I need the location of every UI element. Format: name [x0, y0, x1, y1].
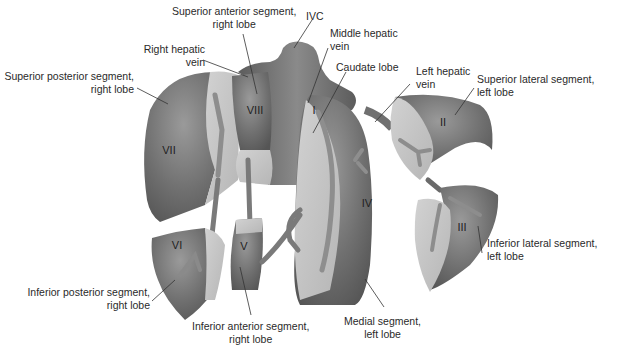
label-middle-hepatic-vein: Middle hepatic vein [330, 27, 398, 52]
label-inferior-posterior-segment: Inferior posterior segment, right lobe [10, 286, 150, 311]
label-ivc: IVC [306, 10, 324, 23]
label-superior-posterior-segment: Superior posterior segment, right lobe [2, 70, 134, 95]
numeral-v: V [240, 240, 248, 252]
segment-ii-shape [391, 95, 493, 190]
segment-vi-shape [152, 228, 225, 320]
label-superior-anterior-segment: Superior anterior segment, right lobe [172, 5, 296, 30]
label-left-hepatic-vein: Left hepatic vein [416, 65, 470, 90]
label-inferior-lateral-segment: Inferior lateral segment, left lobe [487, 237, 597, 262]
label-superior-lateral-segment: Superior lateral segment, left lobe [477, 73, 594, 98]
label-caudate-lobe: Caudate lobe [336, 61, 398, 74]
segment-iii-shape [415, 185, 498, 292]
segment-iv-shape [289, 95, 372, 305]
numeral-vi: VI [172, 239, 182, 251]
numeral-iii: III [457, 221, 466, 233]
numeral-i: I [312, 104, 315, 116]
label-right-hepatic-vein: Right hepatic vein [120, 43, 205, 68]
left-hepatic-vein-shape [365, 110, 392, 128]
segment-vii-shape [144, 72, 240, 223]
label-inferior-anterior-segment: Inferior anterior segment, right lobe [192, 320, 309, 345]
numeral-ii: II [440, 116, 446, 128]
numeral-viii: VIII [247, 104, 264, 116]
numeral-iv: IV [362, 197, 373, 209]
segment-v-shape [231, 215, 300, 290]
label-medial-segment: Medial segment, left lobe [344, 315, 421, 340]
numeral-vii: VII [162, 144, 175, 156]
